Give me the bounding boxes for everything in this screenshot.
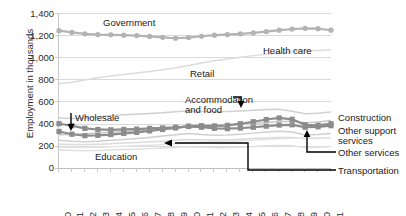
- x-tick-1998: 1998: [156, 168, 167, 214]
- marker-point: [95, 32, 100, 37]
- label-transportation: Transportation: [338, 166, 399, 176]
- marker-point: [290, 122, 295, 127]
- x-tick-1997: 1997: [143, 168, 154, 214]
- marker-point: [290, 117, 295, 122]
- marker-point: [264, 124, 269, 129]
- y-tick-1200: 1,200: [20, 31, 54, 41]
- chart-figure: Employment in thousands 1,400 1,200 1,00…: [0, 0, 406, 216]
- label-other-services: Other services: [338, 148, 399, 158]
- marker-point: [108, 132, 113, 137]
- marker-point: [290, 26, 295, 31]
- x-tickmark: [84, 168, 85, 172]
- marker-point: [212, 123, 217, 128]
- x-tickmark: [330, 168, 331, 172]
- label-construction: Construction: [338, 113, 391, 123]
- x-tickmark: [278, 168, 279, 172]
- x-tick-1994: 1994: [104, 168, 115, 214]
- marker-point: [302, 26, 307, 31]
- x-tick-2000: 2000: [182, 168, 193, 214]
- marker-point: [186, 124, 191, 129]
- marker-point: [225, 32, 230, 37]
- x-tickmark: [317, 168, 318, 172]
- marker-point: [328, 121, 333, 126]
- marker-point: [69, 123, 74, 128]
- marker-point: [277, 122, 282, 127]
- marker-point: [212, 33, 217, 38]
- marker-point: [264, 117, 269, 122]
- label-wholesale: Wholesale: [75, 113, 119, 123]
- marker-point: [147, 34, 152, 39]
- label-health-care: Health care: [263, 46, 312, 56]
- x-tickmark: [175, 168, 176, 172]
- marker-point: [82, 133, 87, 138]
- marker-point: [186, 35, 191, 40]
- x-tickmark: [304, 168, 305, 172]
- x-tick-2002: 2002: [208, 168, 219, 214]
- marker-point: [82, 126, 87, 131]
- y-tick-0: 0: [20, 163, 54, 173]
- marker-point: [277, 115, 282, 120]
- marker-point: [328, 28, 333, 33]
- marker-point: [173, 36, 178, 41]
- x-tickmark: [123, 168, 124, 172]
- x-tick-2001: 2001: [195, 168, 206, 214]
- plot-area: [58, 13, 331, 168]
- x-tick-2006: 2006: [260, 168, 271, 214]
- x-tick-2008: 2008: [286, 168, 297, 214]
- x-tick-label: 2011: [334, 212, 345, 216]
- marker-point: [56, 28, 61, 33]
- marker-point: [160, 35, 165, 40]
- x-tick-2011: 2011: [325, 168, 336, 214]
- x-tickmark: [97, 168, 98, 172]
- label-government: Government: [103, 18, 155, 28]
- marker-point: [69, 30, 74, 35]
- x-tickmark: [213, 168, 214, 172]
- marker-point: [238, 121, 243, 126]
- x-tickmark: [188, 168, 189, 172]
- y-tick-1000: 1,000: [20, 53, 54, 63]
- marker-point: [108, 32, 113, 37]
- x-tick-2005: 2005: [247, 168, 258, 214]
- marker-point: [95, 133, 100, 138]
- y-tick-200: 200: [20, 141, 54, 151]
- x-tick-2003: 2003: [221, 168, 232, 214]
- series-line-transportation: [59, 145, 331, 150]
- x-tick-1995: 1995: [117, 168, 128, 214]
- y-tick-400: 400: [20, 119, 54, 129]
- x-tickmark: [71, 168, 72, 172]
- x-tickmark: [200, 168, 201, 172]
- x-tickmark: [291, 168, 292, 172]
- marker-point: [238, 31, 243, 36]
- label-other-support-services: Other support services: [338, 126, 406, 147]
- x-tick-1991: 1991: [65, 168, 76, 214]
- x-tickmark: [110, 168, 111, 172]
- x-tick-2009: 2009: [299, 168, 310, 214]
- x-tickmark: [239, 168, 240, 172]
- marker-point: [225, 123, 230, 128]
- marker-point: [199, 123, 204, 128]
- x-tick-1990: 1990: [53, 168, 64, 214]
- marker-point: [82, 31, 87, 36]
- x-tick-1996: 1996: [130, 168, 141, 214]
- marker-point: [56, 121, 61, 126]
- label-retail: Retail: [190, 69, 214, 79]
- y-tick-600: 600: [20, 97, 54, 107]
- marker-point: [251, 119, 256, 124]
- x-tickmark: [265, 168, 266, 172]
- marker-point: [121, 131, 126, 136]
- x-tickmark: [162, 168, 163, 172]
- x-tickmark: [149, 168, 150, 172]
- marker-point: [238, 126, 243, 131]
- x-tick-1992: 1992: [78, 168, 89, 214]
- marker-point: [277, 28, 282, 33]
- y-axis-tick-labels: 1,400 1,200 1,000 800 600 400 200 0: [12, 0, 54, 216]
- x-tickmark: [136, 168, 137, 172]
- marker-point: [264, 29, 269, 34]
- x-axis-tick-labels: 1990199119921993199419951996199719981999…: [58, 168, 330, 216]
- y-tick-800: 800: [20, 75, 54, 85]
- marker-point: [108, 127, 113, 132]
- marker-point: [173, 125, 178, 130]
- marker-point: [315, 123, 320, 128]
- series-lines: [59, 13, 331, 168]
- y-tick-1400: 1,400: [20, 9, 54, 19]
